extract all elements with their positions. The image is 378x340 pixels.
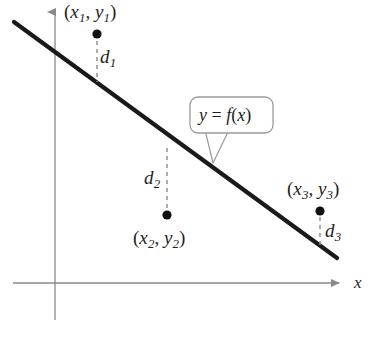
data-point-p1 — [92, 29, 101, 38]
data-point-p2 — [162, 210, 171, 219]
point-label-p3: (x3, y3) — [287, 179, 339, 198]
distance-label-d3: d3 — [325, 221, 341, 240]
callout-label: y = f(x) — [199, 106, 251, 124]
callout-y: y — [199, 105, 207, 125]
regression-line — [14, 22, 337, 258]
distance-label-d1: d1 — [100, 47, 116, 66]
x-axis-label: x — [354, 274, 362, 291]
distance-label-d2: d2 — [144, 168, 160, 187]
point-label-p2: (x2, y2) — [133, 228, 185, 247]
point-label-p1: (x1, y1) — [64, 2, 116, 21]
least-squares-figure: y = f(x) (x1, y1) d1 (x2, y2) d2 (x3, y3… — [0, 0, 378, 340]
callout-pointer — [205, 130, 229, 163]
figure-canvas — [0, 0, 378, 340]
data-point-p3 — [315, 206, 324, 215]
